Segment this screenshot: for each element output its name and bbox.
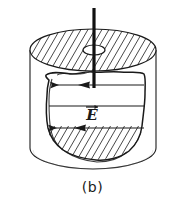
hatched-top-disk	[18, 26, 185, 78]
field-label-E: E	[85, 106, 98, 124]
figure-container: E (b)	[0, 0, 185, 203]
cylinder-bottom-arc	[30, 148, 156, 169]
physics-figure-diagram: E	[0, 0, 185, 203]
field-label-group: E	[85, 105, 98, 124]
arrowhead-upper	[78, 82, 90, 89]
figure-caption: (b)	[0, 178, 185, 196]
